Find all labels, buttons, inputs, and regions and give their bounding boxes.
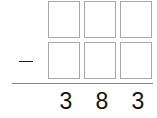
minuend-digit-box-tens[interactable]: [84, 1, 116, 38]
subtrahend-digit-box-tens[interactable]: [84, 42, 116, 79]
subtrahend-digit-box-hundreds[interactable]: [48, 42, 80, 79]
minuend-digit-box-hundreds[interactable]: [48, 1, 80, 38]
result-divider-line: [12, 83, 153, 84]
subtrahend-digit-box-ones[interactable]: [120, 42, 152, 79]
result-digit-ones: 3: [122, 88, 154, 114]
minus-sign-icon: [19, 61, 33, 62]
result-digit-tens: 8: [86, 88, 118, 114]
result-digit-hundreds: 3: [50, 88, 82, 114]
minuend-digit-box-ones[interactable]: [120, 1, 152, 38]
